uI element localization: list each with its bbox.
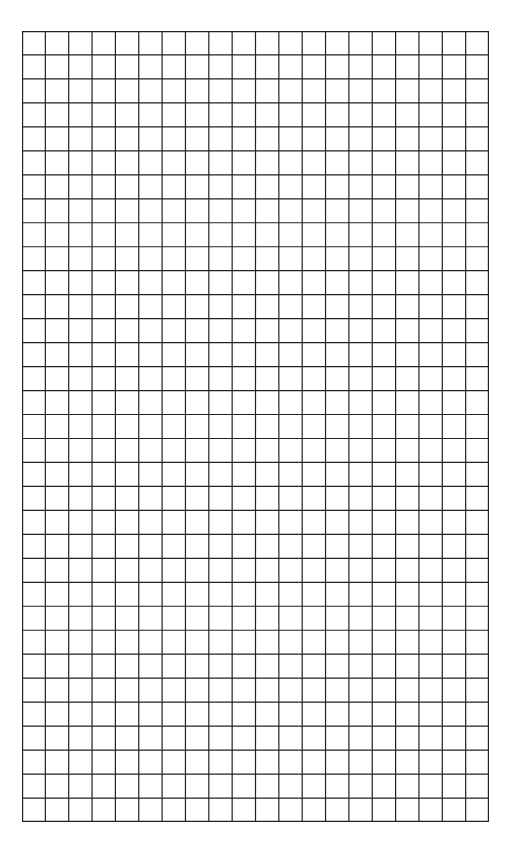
square-grid bbox=[22, 31, 489, 822]
graph-paper-page bbox=[0, 0, 512, 864]
grid-lines bbox=[22, 31, 489, 822]
